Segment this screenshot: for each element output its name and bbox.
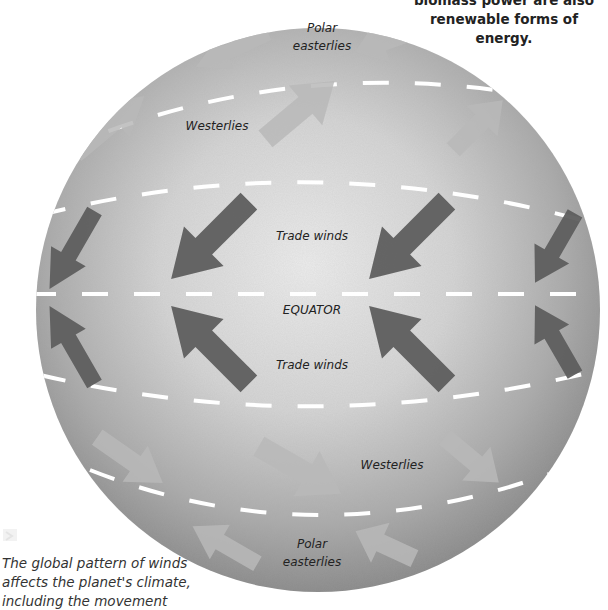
caption: The global pattern of winds affects the … bbox=[2, 554, 242, 610]
caption-line-1: The global pattern of winds bbox=[2, 554, 242, 573]
label-equator: EQUATOR bbox=[283, 303, 341, 317]
label-polar-easterlies-south-line2: easterlies bbox=[283, 555, 341, 569]
label-westerlies-north: Westerlies bbox=[186, 119, 249, 133]
label-trade-winds-south: Trade winds bbox=[276, 358, 348, 372]
label-westerlies-south: Westerlies bbox=[361, 458, 424, 472]
label-polar-easterlies-north-line1: Polar bbox=[307, 21, 338, 35]
arrow-bullet-icon bbox=[2, 527, 18, 543]
caption-line-2: affects the planet's climate, bbox=[2, 573, 242, 592]
label-polar-easterlies-south-line1: Polar bbox=[297, 537, 328, 551]
label-trade-winds-north: Trade winds bbox=[276, 229, 348, 243]
globe-diagram: Polar easterlies Westerlies Trade winds … bbox=[0, 0, 608, 610]
label-polar-easterlies-north-line2: easterlies bbox=[293, 39, 351, 53]
caption-line-3: including the movement bbox=[2, 592, 242, 610]
